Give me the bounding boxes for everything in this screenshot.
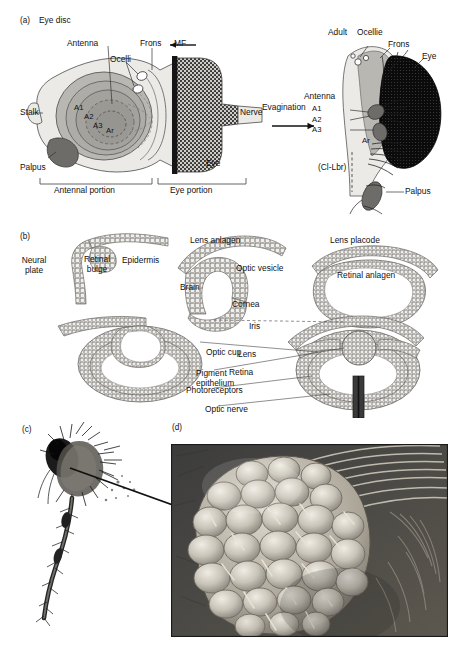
label-evagination: Evagination [262, 103, 306, 113]
label-stalk: Stalk [20, 108, 39, 118]
panel-a-title: Eye disc [39, 16, 71, 26]
label-antenna: Antenna [67, 39, 98, 49]
label-a3: A3 [93, 121, 102, 131]
panels-cd-graphic [0, 416, 456, 651]
label-a3-adult: A3 [312, 125, 321, 135]
figure-root: (a) Eye disc Antenna Ocelli Frons MF Sta… [0, 0, 456, 651]
label-cl-lbr: (Cl-Lbr) [318, 163, 346, 173]
panel-a-tag: (a) [20, 16, 30, 26]
stage-lens-placode [312, 246, 438, 328]
label-neural-plate: Neural plate [12, 256, 56, 275]
evagination-arrow [272, 123, 314, 129]
label-palpus-adult: Palpus [405, 187, 431, 197]
label-cornea: Cornea [232, 300, 259, 310]
label-a1-adult: A1 [312, 104, 321, 114]
label-optic-vesicle: Optic vesicle [236, 264, 283, 274]
label-ocelli: Ocelli [110, 55, 131, 65]
label-antennal-portion: Antennal portion [54, 186, 115, 196]
label-optic-nerve: Optic nerve [205, 405, 248, 415]
mosquito-photo [36, 422, 135, 626]
label-frons: Frons [140, 39, 161, 49]
label-ar-adult: Ar [362, 136, 370, 146]
label-ar: Ar [106, 126, 114, 136]
label-a2-adult: A2 [312, 115, 321, 125]
label-antenna-adult: Antenna [304, 92, 335, 102]
panel-c-tag: (c) [22, 425, 32, 435]
label-palpus: Palpus [20, 163, 46, 173]
lens-sphere [342, 331, 376, 365]
label-retinal-bulge: Retinal bulge [76, 255, 118, 274]
label-lens-placode: Lens placode [330, 236, 380, 246]
eye-portion-field [176, 58, 238, 172]
panel-b-tag: (b) [20, 232, 30, 242]
stage-optic-cup [58, 316, 202, 402]
label-a1: A1 [74, 103, 83, 113]
label-adult: Adult [328, 28, 347, 38]
label-retina: Retina [229, 368, 253, 378]
label-nerve: Nerve [240, 108, 262, 118]
eye-disc-diagram [27, 42, 262, 184]
label-photoreceptors: Photoreceptors [186, 386, 243, 396]
morphogenetic-furrow-bar [172, 56, 177, 174]
label-eye-adult: Eye [422, 52, 436, 62]
panel-a-graphic [0, 0, 456, 215]
label-a2: A2 [84, 112, 93, 122]
label-optic-cup: Optic cup [206, 348, 241, 358]
sem-micrograph [171, 444, 448, 644]
label-eye-portion: Eye portion [170, 186, 212, 196]
label-frons-adult: Frons [388, 40, 409, 50]
label-mf: MF [174, 39, 186, 49]
label-eye-disc: Eye [206, 159, 220, 169]
label-brain: Brain [180, 283, 200, 293]
adult-ocellus-1 [355, 59, 361, 65]
label-lens-anlagen: Lens anlagen [190, 236, 240, 246]
label-lens: Lens [238, 350, 256, 360]
adult-ocellus-2 [363, 55, 368, 60]
label-iris: Iris [249, 322, 260, 332]
label-ocellie: Ocellie [357, 28, 383, 38]
panel-d-tag: (d) [172, 423, 182, 433]
adult-ocellus-3 [351, 54, 355, 58]
label-epidermis: Epidermis [122, 256, 159, 266]
label-retinal-anlagen: Retinal anlagen [337, 271, 395, 281]
